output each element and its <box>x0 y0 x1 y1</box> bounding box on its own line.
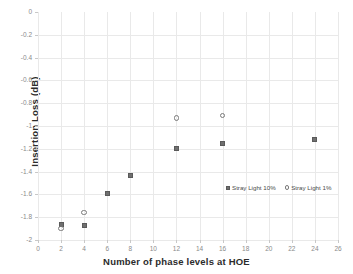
y-axis-tick <box>35 149 38 150</box>
gridline-horizontal <box>38 58 338 59</box>
gridline-vertical <box>338 12 339 240</box>
y-axis-tick-label: -0.4 <box>6 54 32 61</box>
data-point-marker <box>174 115 180 121</box>
x-axis-tick <box>246 240 247 243</box>
gridline-horizontal <box>38 35 338 36</box>
y-axis-tick-label: 0 <box>6 8 32 15</box>
x-axis-tick-label: 6 <box>95 245 119 252</box>
data-point-marker <box>220 141 225 146</box>
gridline-horizontal <box>38 172 338 173</box>
y-axis-tick <box>35 126 38 127</box>
x-axis-tick <box>223 240 224 243</box>
x-axis-tick <box>338 240 339 243</box>
x-axis-tick-label: 4 <box>72 245 96 252</box>
x-axis-tick <box>84 240 85 243</box>
data-point-marker <box>82 223 87 228</box>
x-axis-tick-label: 0 <box>26 245 50 252</box>
y-axis-tick-label: -0.8 <box>6 99 32 106</box>
x-axis-tick <box>153 240 154 243</box>
x-axis-tick-label: 8 <box>118 245 142 252</box>
y-axis-tick <box>35 240 38 241</box>
x-axis-tick <box>269 240 270 243</box>
gridline-horizontal <box>38 126 338 127</box>
x-axis-tick <box>200 240 201 243</box>
gridline-horizontal <box>38 194 338 195</box>
y-axis-tick-label: -0.2 <box>6 31 32 38</box>
y-axis-tick-label: -1 <box>6 122 32 129</box>
data-point-marker <box>128 173 133 178</box>
y-axis-tick <box>35 217 38 218</box>
data-point-marker <box>105 191 110 196</box>
y-axis-tick <box>35 80 38 81</box>
x-axis-tick-label: 18 <box>234 245 258 252</box>
x-axis-tick-label: 26 <box>326 245 350 252</box>
x-axis-tick <box>176 240 177 243</box>
gridline-horizontal <box>38 217 338 218</box>
chart-legend: Stray Light 10% Stray Light 1% <box>226 184 331 191</box>
chart-container: Insertion Loss (dB) 02468101214161820222… <box>0 0 353 274</box>
filled-square-marker-icon <box>226 186 230 190</box>
x-axis-tick-label: 20 <box>257 245 281 252</box>
data-point-marker <box>312 137 317 142</box>
x-axis-title: Number of phase levels at HOE <box>0 256 353 267</box>
legend-item-stray-light-1[interactable]: Stray Light 1% <box>285 184 332 191</box>
x-axis-tick-label: 22 <box>280 245 304 252</box>
y-axis-tick <box>35 103 38 104</box>
gridline-horizontal <box>38 240 338 241</box>
x-axis-tick <box>292 240 293 243</box>
y-axis-tick-label: -1.8 <box>6 213 32 220</box>
x-axis-tick-label: 2 <box>49 245 73 252</box>
x-axis-tick-label: 10 <box>141 245 165 252</box>
x-axis-tick-label: 24 <box>303 245 327 252</box>
data-point-marker <box>174 146 179 151</box>
y-axis-tick <box>35 194 38 195</box>
x-axis-tick-label: 16 <box>211 245 235 252</box>
x-axis-tick-label: 12 <box>164 245 188 252</box>
y-axis-tick-label: -1.4 <box>6 168 32 175</box>
y-axis-tick-label: -2 <box>6 236 32 243</box>
gridline-horizontal <box>38 80 338 81</box>
y-axis-tick <box>35 58 38 59</box>
x-axis-tick <box>107 240 108 243</box>
plot-area <box>38 12 338 240</box>
open-circle-marker-icon <box>285 185 290 190</box>
gridline-horizontal <box>38 149 338 150</box>
x-axis-tick <box>315 240 316 243</box>
y-axis-tick-label: -1.2 <box>6 145 32 152</box>
x-axis-tick <box>61 240 62 243</box>
x-axis-tick <box>130 240 131 243</box>
y-axis-tick <box>35 172 38 173</box>
y-axis-tick-label: -0.6 <box>6 76 32 83</box>
x-axis-tick-label: 14 <box>188 245 212 252</box>
gridline-horizontal <box>38 103 338 104</box>
legend-label-stray-light-1: Stray Light 1% <box>291 184 331 191</box>
legend-item-stray-light-10[interactable]: Stray Light 10% <box>226 184 276 191</box>
legend-label-stray-light-10: Stray Light 10% <box>232 184 276 191</box>
y-axis-tick <box>35 35 38 36</box>
x-axis-tick <box>38 240 39 243</box>
y-axis-tick <box>35 12 38 13</box>
y-axis-tick-label: -1.6 <box>6 190 32 197</box>
